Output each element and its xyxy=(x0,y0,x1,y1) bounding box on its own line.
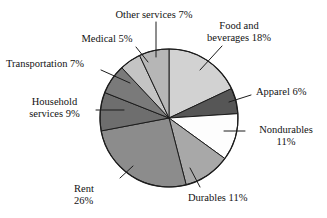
pie-chart-figure: Other services 7% Food and beverages 18%… xyxy=(0,0,327,218)
pie-label-household-services: Household services 9% xyxy=(6,96,103,119)
pie-label-medical: Medical 5% xyxy=(62,33,152,45)
pie-label-food-and-beverages: Food and beverages 18% xyxy=(196,20,282,43)
pie-label-transportation: Transportation 7% xyxy=(6,58,116,70)
pie-label-apparel: Apparel 6% xyxy=(256,86,322,98)
pie-slices xyxy=(100,49,238,187)
pie-label-nondurables: Nondurables 11% xyxy=(250,124,322,147)
pie-label-durables: Durables 11% xyxy=(188,192,280,204)
pie-label-rent: Rent 26% xyxy=(74,183,116,206)
pie-label-other-services: Other services 7% xyxy=(100,9,208,21)
